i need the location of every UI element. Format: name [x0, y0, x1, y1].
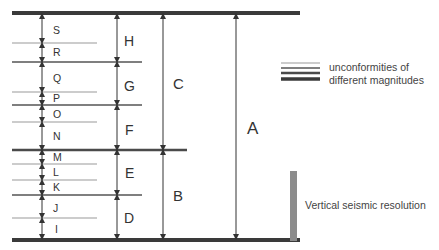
- label-k: K: [53, 181, 60, 193]
- seismic-resolution-legend-label: Vertical seismic resolution: [305, 199, 426, 212]
- label-d: D: [124, 210, 134, 226]
- label-c: C: [173, 75, 184, 92]
- label-h: H: [124, 33, 134, 49]
- label-f: F: [125, 122, 134, 138]
- small-unit-labels: S R Q P O N M L K J I: [53, 24, 62, 235]
- label-l: L: [53, 166, 59, 178]
- label-n: N: [53, 130, 61, 142]
- unconformities-legend-label: unconformities of different magnitudes: [329, 61, 424, 87]
- unconformities-legend-line1: unconformities of: [329, 61, 424, 74]
- label-a: A: [247, 119, 259, 138]
- label-g: G: [124, 78, 135, 94]
- label-o: O: [53, 108, 61, 120]
- label-b: B: [173, 187, 183, 204]
- label-j: J: [53, 202, 58, 214]
- label-r: R: [53, 46, 61, 58]
- label-p: P: [53, 92, 60, 104]
- label-e: E: [125, 165, 134, 181]
- stratigraphic-diagram: S R Q P O N M L K J I H G F E D C B A: [0, 0, 439, 250]
- unconformity-legend-swatch: [281, 63, 320, 79]
- large-unit-labels: C B: [173, 75, 184, 204]
- label-i: I: [55, 223, 58, 235]
- seismic-resolution-bar: [290, 171, 297, 241]
- label-m: M: [53, 151, 62, 163]
- unconformities-legend-line2: different magnitudes: [329, 74, 424, 87]
- label-q: Q: [53, 72, 61, 84]
- label-s: S: [53, 24, 60, 36]
